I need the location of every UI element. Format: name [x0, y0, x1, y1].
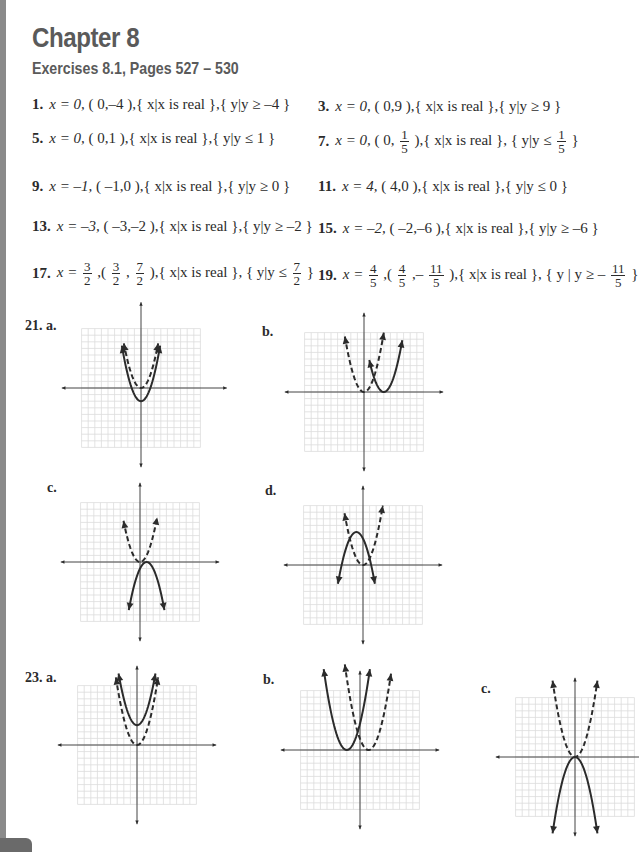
graph-3	[284, 486, 442, 644]
graph-5	[281, 664, 439, 829]
graph-1	[285, 313, 443, 471]
graph-6	[496, 678, 639, 836]
graph-4	[58, 666, 216, 824]
graph-0	[62, 302, 227, 467]
graph-2	[61, 483, 219, 641]
